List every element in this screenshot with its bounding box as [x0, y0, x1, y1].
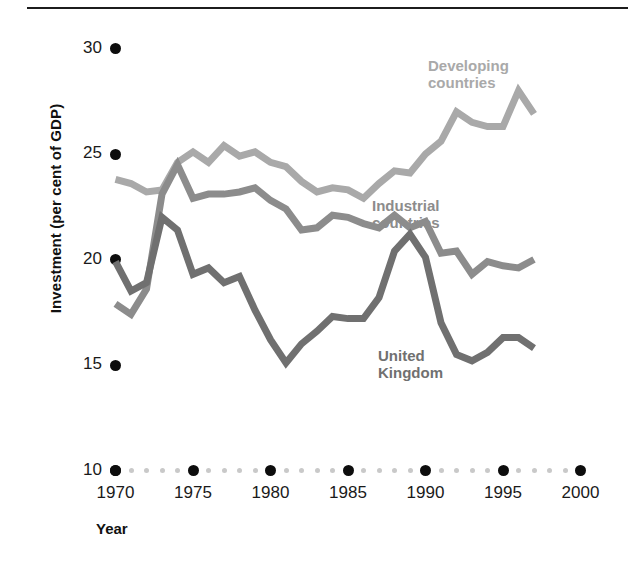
series-label-industrial-countries: Industrial countries — [372, 198, 440, 232]
series-label-united-kingdom: United Kingdom — [378, 348, 443, 382]
series-line-united-kingdom — [116, 217, 535, 363]
series-label-developing-countries: Developing countries — [428, 58, 509, 92]
investment-line-chart: Investment (per cent of GDP) Year 101520… — [0, 0, 642, 574]
plot-area — [0, 0, 642, 574]
series-line-developing-countries — [116, 91, 535, 199]
